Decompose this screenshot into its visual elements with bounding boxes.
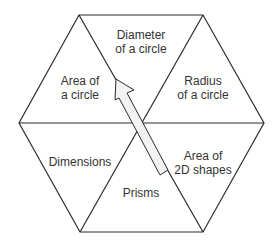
segment-lower-left-label: Dimensions: [49, 155, 112, 169]
segment-bottom-label: Prisms: [123, 186, 160, 200]
segment-upper-left-line-1: Area of: [61, 74, 100, 88]
segment-lower-right-label: Area of 2D shapes: [174, 149, 231, 177]
segment-upper-left-line-2: a circle: [61, 88, 100, 102]
segment-upper-left-label: Area of a circle: [61, 74, 100, 102]
segment-top-line-2: of a circle: [115, 42, 166, 56]
segment-upper-right-line-2: of a circle: [177, 88, 228, 102]
segment-lower-left-line-1: Dimensions: [49, 155, 112, 169]
segment-top-label: Diameter of a circle: [115, 28, 166, 56]
segment-top-line-1: Diameter: [115, 28, 166, 42]
segment-upper-right-label: Radius of a circle: [177, 74, 228, 102]
segment-lower-right-line-1: Area of: [174, 149, 231, 163]
segment-lower-right-line-2: 2D shapes: [174, 163, 231, 177]
segment-bottom-line-1: Prisms: [123, 186, 160, 200]
segment-upper-right-line-1: Radius: [177, 74, 228, 88]
